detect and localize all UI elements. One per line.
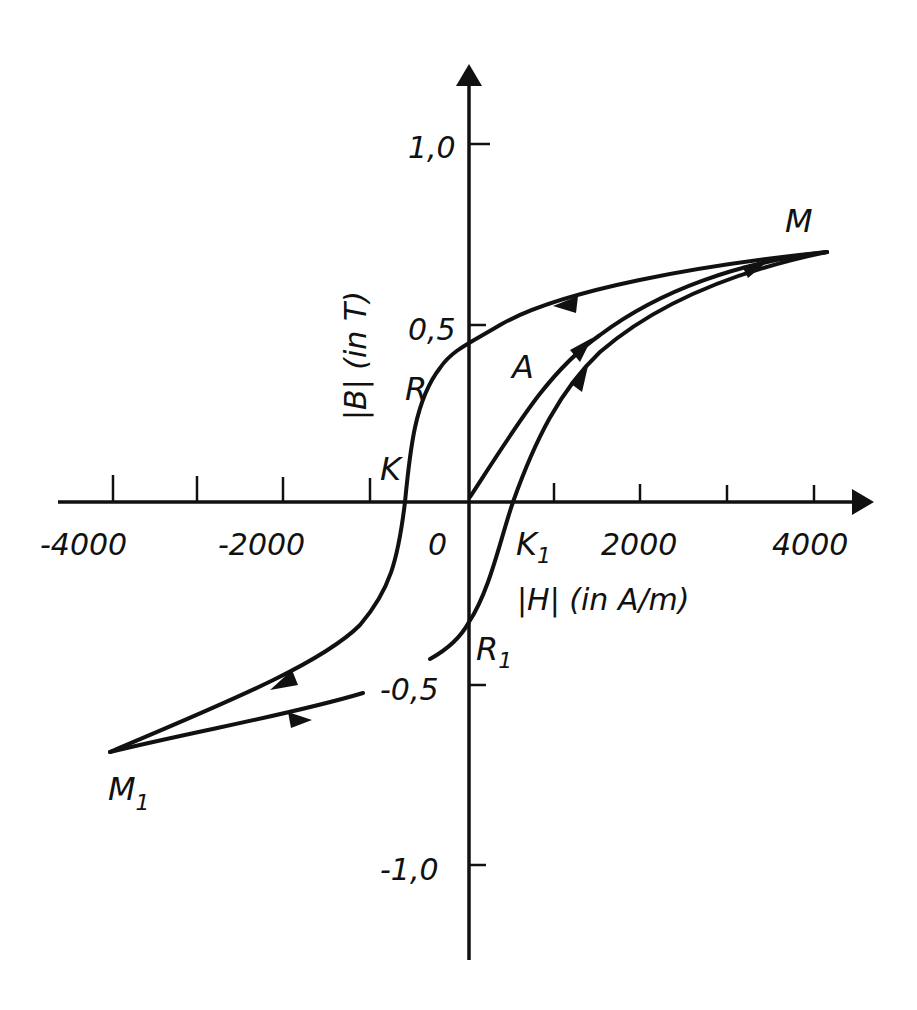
y-tick-labels: 1,0 0,5 -0,5 -1,0: [380, 130, 456, 887]
x-axis-arrow-icon: [852, 489, 874, 515]
y-axis-label: |B| (in T): [338, 291, 374, 420]
y-tick-label: -0,5: [380, 672, 439, 707]
x-tick-label: 0: [428, 527, 447, 562]
ascending-branch-lower: [110, 693, 363, 752]
y-tick-label: 0,5: [408, 312, 456, 347]
x-tick-labels: -4000 -2000 0 2000 4000: [40, 527, 848, 562]
x-ticks: [113, 475, 814, 502]
point-label-M1: M1: [108, 770, 150, 815]
x-tick-label: -2000: [218, 527, 305, 562]
point-label-R: R: [405, 370, 427, 408]
arrow-up-right-icon: [570, 366, 588, 392]
y-axis-arrow-icon: [456, 64, 482, 86]
x-tick-label: -4000: [40, 527, 127, 562]
point-label-R1: R1: [476, 630, 512, 673]
point-label-K1: K1: [516, 525, 551, 568]
y-tick-label: -1,0: [380, 852, 439, 887]
arrow-right-icon: [288, 712, 312, 728]
x-tick-label: 2000: [601, 527, 677, 562]
x-axis-label: |H| (in A/m): [517, 582, 689, 618]
point-label-M: M: [785, 202, 813, 240]
y-tick-label: 1,0: [408, 130, 456, 165]
point-label-K: K: [380, 450, 404, 488]
point-label-A: A: [510, 348, 534, 386]
axes: [58, 82, 860, 960]
y-ticks: [469, 144, 490, 865]
hysteresis-diagram: -4000 -2000 0 2000 4000 1,0 0,5 -0,5 -1,…: [0, 0, 917, 1010]
x-tick-label: 4000: [772, 527, 848, 562]
